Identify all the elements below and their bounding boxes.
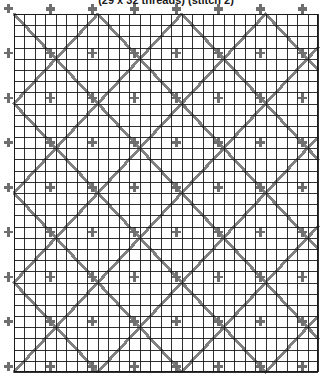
pattern-grid-svg <box>14 14 318 372</box>
pattern-chart <box>14 14 318 372</box>
